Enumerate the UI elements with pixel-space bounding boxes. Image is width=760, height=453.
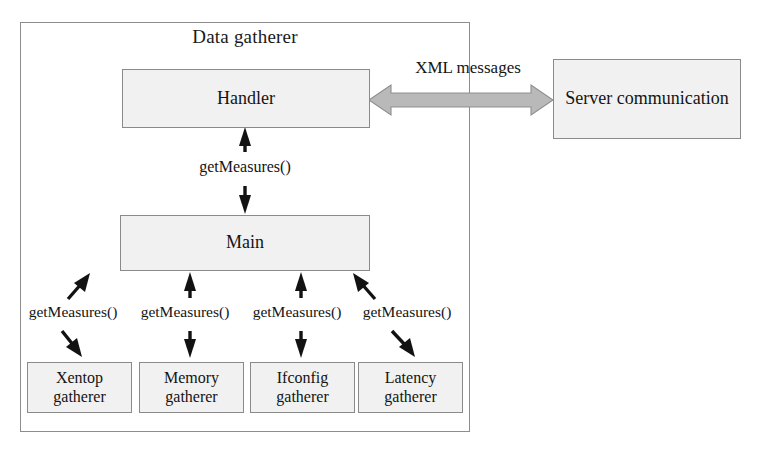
node-xentop-gatherer-line1: Xentop: [56, 369, 103, 386]
edge-label-gatherer-3-getmeasures: getMeasures(): [348, 303, 466, 321]
node-xentop-gatherer-label: Xentop gatherer: [53, 369, 105, 407]
node-ifconfig-gatherer[interactable]: Ifconfig gatherer: [250, 362, 355, 413]
edge-label-xml-messages: XML messages: [383, 58, 553, 78]
node-memory-gatherer[interactable]: Memory gatherer: [139, 362, 244, 413]
node-server-communication-label: Server communication: [565, 88, 728, 109]
node-ifconfig-gatherer-label: Ifconfig gatherer: [276, 369, 328, 407]
node-server-communication[interactable]: Server communication: [553, 59, 741, 139]
node-handler[interactable]: Handler: [122, 69, 370, 128]
node-handler-label: Handler: [217, 88, 275, 109]
node-memory-gatherer-line2: gatherer: [165, 388, 217, 405]
edge-label-gatherer-0-getmeasures: getMeasures(): [14, 303, 132, 321]
node-memory-gatherer-label: Memory gatherer: [164, 369, 219, 407]
edge-label-handler-main-getmeasures: getMeasures(): [120, 158, 370, 176]
node-latency-gatherer[interactable]: Latency gatherer: [358, 362, 463, 413]
diagram-canvas: Data gatherer: [0, 0, 760, 453]
node-main-label: Main: [226, 232, 264, 253]
node-xentop-gatherer[interactable]: Xentop gatherer: [27, 362, 132, 413]
edge-label-gatherer-2-getmeasures: getMeasures(): [238, 303, 356, 321]
node-main[interactable]: Main: [120, 215, 370, 271]
node-xentop-gatherer-line2: gatherer: [53, 388, 105, 405]
edge-label-gatherer-1-getmeasures: getMeasures(): [126, 303, 244, 321]
node-latency-gatherer-label: Latency gatherer: [384, 369, 436, 407]
node-ifconfig-gatherer-line1: Ifconfig: [277, 369, 329, 386]
node-latency-gatherer-line2: gatherer: [384, 388, 436, 405]
node-memory-gatherer-line1: Memory: [164, 369, 219, 386]
node-latency-gatherer-line1: Latency: [385, 369, 437, 386]
node-ifconfig-gatherer-line2: gatherer: [276, 388, 328, 405]
container-title: Data gatherer: [20, 26, 470, 48]
